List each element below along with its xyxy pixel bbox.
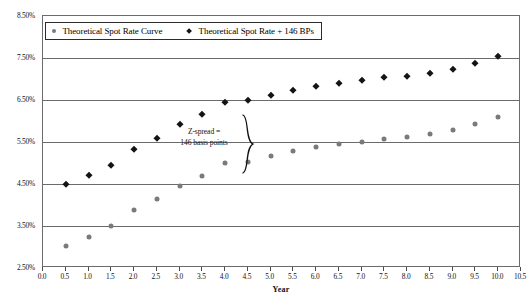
x-tick	[497, 267, 498, 271]
x-tick	[406, 267, 407, 271]
x-axis-tick-label: 6.0	[311, 272, 320, 281]
x-axis-tick-label: 9.0	[447, 272, 456, 281]
data-point	[336, 80, 342, 86]
data-point	[108, 161, 114, 167]
x-tick	[452, 267, 453, 271]
x-axis-tick-label: 8.0	[402, 272, 411, 281]
x-axis-tick-label: 7.0	[356, 272, 365, 281]
x-axis-tick-label: 0.0	[38, 272, 47, 281]
gridline	[43, 226, 519, 227]
data-point	[496, 115, 501, 120]
x-axis-tick-label: 1.0	[83, 272, 92, 281]
x-axis-tick-label: 2.5	[151, 272, 160, 281]
data-point	[405, 134, 410, 139]
data-point	[63, 243, 68, 248]
y-axis-tick-label: 4.50%	[1, 179, 35, 188]
legend-label-spot-rate-curve: Theoretical Spot Rate Curve	[62, 26, 162, 36]
x-tick	[42, 267, 43, 271]
x-axis-tick-label: 9.5	[470, 272, 479, 281]
x-axis-tick-label: 0.5	[60, 272, 69, 281]
chart-root: Theoretical Spot Rate Curve Theoretical …	[0, 0, 531, 300]
x-axis-tick-label: 5.0	[265, 272, 274, 281]
x-tick	[520, 267, 521, 271]
data-point	[358, 77, 364, 83]
x-tick	[338, 267, 339, 271]
x-tick	[361, 267, 362, 271]
data-point	[382, 136, 387, 141]
data-point	[85, 172, 91, 178]
gridline	[43, 100, 519, 101]
data-point	[336, 142, 341, 147]
x-axis: 0.00.51.01.52.02.53.03.54.04.55.05.56.06…	[42, 267, 520, 300]
data-point	[404, 72, 410, 78]
y-axis-tick-label: 7.50%	[1, 53, 35, 62]
x-axis-tick-label: 2.0	[129, 272, 138, 281]
x-tick	[429, 267, 430, 271]
data-point	[109, 224, 114, 229]
x-tick	[247, 267, 248, 271]
x-tick	[133, 267, 134, 271]
y-axis-tick-label: 6.50%	[1, 95, 35, 104]
data-point	[199, 111, 205, 117]
data-point	[381, 74, 387, 80]
z-spread-line-1: Z-spread =	[158, 126, 250, 137]
x-tick	[270, 267, 271, 271]
x-tick	[292, 267, 293, 271]
legend-diamond-marker-icon	[187, 28, 193, 34]
gridline	[43, 142, 519, 143]
x-axis-tick-label: 4.5	[243, 272, 252, 281]
data-point	[200, 173, 205, 178]
data-point	[267, 91, 273, 97]
legend-item-spot-rate-plus-146bps[interactable]: Theoretical Spot Rate + 146 BPs	[186, 26, 313, 36]
x-tick	[474, 267, 475, 271]
data-point	[245, 97, 251, 103]
x-tick	[88, 267, 89, 271]
data-point	[177, 183, 182, 188]
z-spread-annotation: Z-spread = 146 basis points	[158, 126, 250, 148]
data-point	[131, 146, 137, 152]
data-point	[450, 128, 455, 133]
data-point	[449, 66, 455, 72]
x-tick	[315, 267, 316, 271]
y-axis-tick-label: 2.50%	[1, 263, 35, 272]
data-point	[314, 145, 319, 150]
x-axis-title: Year	[42, 285, 520, 294]
data-point	[290, 87, 296, 93]
x-tick	[65, 267, 66, 271]
x-axis-tick-label: 6.5	[334, 272, 343, 281]
z-spread-line-2: 146 basis points	[158, 137, 250, 148]
data-point	[223, 161, 228, 166]
gridline	[43, 58, 519, 59]
x-tick	[383, 267, 384, 271]
x-axis-tick-label: 3.0	[174, 272, 183, 281]
cropped-title-strip	[0, 0, 531, 5]
x-axis-tick-label: 5.5	[288, 272, 297, 281]
data-point	[86, 234, 91, 239]
data-point	[472, 59, 478, 65]
y-axis-tick-label: 5.50%	[1, 137, 35, 146]
x-tick	[156, 267, 157, 271]
x-axis-tick-label: 10.5	[514, 272, 526, 281]
data-point	[313, 83, 319, 89]
x-axis-tick-label: 4.0	[220, 272, 229, 281]
y-axis-tick-label: 3.50%	[1, 221, 35, 230]
x-tick	[179, 267, 180, 271]
plot-area: Theoretical Spot Rate Curve Theoretical …	[42, 15, 520, 267]
data-point	[427, 132, 432, 137]
x-tick	[201, 267, 202, 271]
data-point	[132, 208, 137, 213]
data-point	[427, 69, 433, 75]
data-point	[473, 121, 478, 126]
data-point	[63, 181, 69, 187]
legend-label-spot-rate-plus-146bps: Theoretical Spot Rate + 146 BPs	[199, 26, 314, 36]
data-point	[268, 153, 273, 158]
x-axis-tick-label: 8.5	[425, 272, 434, 281]
x-axis-tick-label: 7.5	[379, 272, 388, 281]
x-axis-tick-label: 10.0	[491, 272, 503, 281]
gridline	[43, 184, 519, 185]
legend-item-spot-rate-curve[interactable]: Theoretical Spot Rate Curve	[52, 26, 162, 36]
x-tick	[110, 267, 111, 271]
x-axis-tick-label: 1.5	[106, 272, 115, 281]
legend-circle-marker-icon	[52, 29, 56, 33]
x-tick	[224, 267, 225, 271]
